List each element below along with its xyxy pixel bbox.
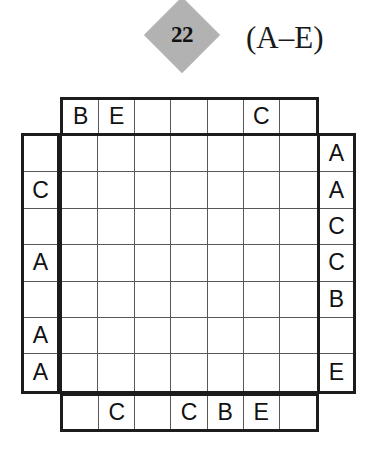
right-clue-cell[interactable]: E [320, 354, 353, 390]
grid-row [62, 318, 317, 354]
top-clue-band: B E C [60, 97, 319, 136]
grid-cell[interactable] [62, 354, 98, 390]
right-clue-cell[interactable]: B [320, 282, 353, 318]
grid-cell[interactable] [62, 172, 98, 208]
left-clue-row: A [24, 354, 57, 390]
left-clue-cell[interactable] [24, 136, 57, 172]
left-clue-cell[interactable] [24, 282, 57, 318]
grid-cell[interactable] [208, 136, 244, 172]
grid-cell[interactable] [135, 318, 171, 354]
grid-cell[interactable] [171, 136, 207, 172]
bottom-clue-cell[interactable] [63, 396, 99, 429]
grid-cell[interactable] [62, 136, 98, 172]
top-clue-cell[interactable]: C [244, 100, 280, 133]
bottom-clue-cell[interactable]: C [99, 396, 135, 429]
grid-cell[interactable] [244, 282, 280, 318]
grid-cell[interactable] [244, 354, 280, 390]
puzzle-number-label: 22 [155, 8, 209, 62]
puzzle-grid [59, 133, 320, 394]
grid-cell[interactable] [244, 245, 280, 281]
grid-cell[interactable] [208, 354, 244, 390]
left-clue-row [24, 209, 57, 245]
grid-cell[interactable] [171, 354, 207, 390]
grid-cell[interactable] [135, 136, 171, 172]
left-clue-cell[interactable]: C [24, 172, 57, 208]
grid-cell[interactable] [244, 172, 280, 208]
bottom-clue-cell[interactable]: B [208, 396, 244, 429]
grid-cell[interactable] [98, 282, 134, 318]
grid-cell[interactable] [208, 172, 244, 208]
grid-cell[interactable] [280, 245, 316, 281]
grid-cell[interactable] [98, 209, 134, 245]
grid-cell[interactable] [280, 318, 316, 354]
right-clue-cell[interactable]: A [320, 172, 353, 208]
left-clue-band: C A A A [21, 133, 60, 394]
right-clue-cell[interactable]: C [320, 245, 353, 281]
grid-row [62, 172, 317, 208]
bottom-clue-band: C C B E [60, 393, 319, 432]
letter-range-label: (A–E) [246, 18, 323, 58]
right-clue-row: C [320, 209, 353, 245]
left-clue-row: A [24, 245, 57, 281]
right-clue-row: C [320, 245, 353, 281]
top-clue-cell[interactable] [171, 100, 207, 133]
right-clue-cell[interactable] [320, 318, 353, 354]
top-clue-row: B E C [63, 100, 316, 133]
left-clue-cell[interactable]: A [24, 245, 57, 281]
grid-cell[interactable] [280, 172, 316, 208]
grid-cell[interactable] [171, 172, 207, 208]
grid-row [62, 354, 317, 390]
grid-cell[interactable] [98, 172, 134, 208]
grid-cell[interactable] [171, 209, 207, 245]
right-clue-cell[interactable]: A [320, 136, 353, 172]
top-clue-cell[interactable]: E [99, 100, 135, 133]
grid-cell[interactable] [280, 282, 316, 318]
grid-cell[interactable] [280, 354, 316, 390]
grid-cell[interactable] [98, 354, 134, 390]
grid-cell[interactable] [135, 245, 171, 281]
bottom-clue-cell[interactable] [280, 396, 316, 429]
top-clue-cell[interactable] [280, 100, 316, 133]
top-clue-cell[interactable] [135, 100, 171, 133]
grid-cell[interactable] [135, 172, 171, 208]
grid-cell[interactable] [244, 209, 280, 245]
grid-cell[interactable] [135, 209, 171, 245]
puzzle-header: 22 (A–E) [0, 0, 377, 92]
right-clue-row: A [320, 172, 353, 208]
grid-cell[interactable] [98, 318, 134, 354]
right-clue-cell[interactable]: C [320, 209, 353, 245]
bottom-clue-cell[interactable]: C [171, 396, 207, 429]
bottom-clue-cell[interactable] [135, 396, 171, 429]
grid-cell[interactable] [171, 245, 207, 281]
grid-cell[interactable] [208, 209, 244, 245]
grid-row [62, 136, 317, 172]
grid-cell[interactable] [208, 318, 244, 354]
right-clue-row: B [320, 282, 353, 318]
top-clue-cell[interactable] [208, 100, 244, 133]
right-clue-row [320, 318, 353, 354]
grid-cell[interactable] [280, 209, 316, 245]
grid-cell[interactable] [62, 282, 98, 318]
grid-cell[interactable] [62, 318, 98, 354]
top-clue-cell[interactable]: B [63, 100, 99, 133]
bottom-clue-cell[interactable]: E [244, 396, 280, 429]
grid-cell[interactable] [98, 136, 134, 172]
grid-cell[interactable] [62, 245, 98, 281]
grid-cell[interactable] [208, 282, 244, 318]
grid-cell[interactable] [171, 318, 207, 354]
grid-cell[interactable] [208, 245, 244, 281]
grid-cell[interactable] [171, 282, 207, 318]
grid-cell[interactable] [244, 318, 280, 354]
grid-cell[interactable] [98, 245, 134, 281]
grid-cell[interactable] [244, 136, 280, 172]
right-clue-band: A A C C B E [317, 133, 356, 394]
grid-cell[interactable] [62, 209, 98, 245]
grid-cell[interactable] [135, 282, 171, 318]
left-clue-row [24, 136, 57, 172]
left-clue-cell[interactable]: A [24, 318, 57, 354]
right-clue-row: A [320, 136, 353, 172]
grid-cell[interactable] [280, 136, 316, 172]
grid-cell[interactable] [135, 354, 171, 390]
left-clue-cell[interactable]: A [24, 354, 57, 390]
left-clue-cell[interactable] [24, 209, 57, 245]
